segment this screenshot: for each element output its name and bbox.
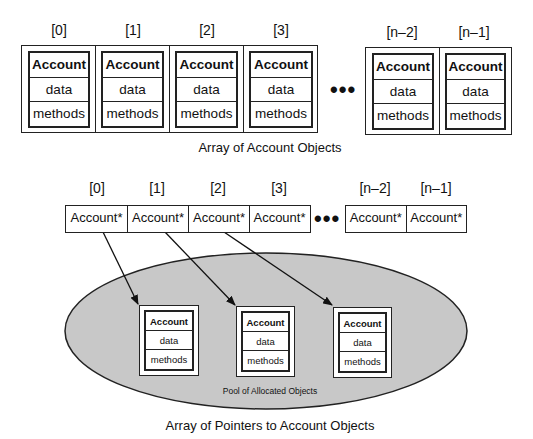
index-label: [3] xyxy=(249,180,309,196)
data-section: data xyxy=(340,333,385,352)
pointer-cell: Account* xyxy=(66,206,128,232)
pointer-cell: Account* xyxy=(407,206,467,232)
methods-section: methods xyxy=(340,352,385,371)
account-object: Account data methods xyxy=(241,311,290,372)
data-section: data xyxy=(146,331,192,350)
account-object: Account data methods xyxy=(144,310,194,371)
index-label: [n–1] xyxy=(406,180,466,196)
pointer-array-container: Account* Account* Account* Account* xyxy=(65,205,311,233)
index-label: [2] xyxy=(188,180,248,196)
account-object: Account data methods xyxy=(338,312,387,373)
pointer-cell: Account* xyxy=(189,206,250,232)
index-label: [n–2] xyxy=(345,180,405,196)
pointer-array-container: Account* Account* xyxy=(345,205,467,233)
index-label: [1] xyxy=(127,180,187,196)
pool-label: Pool of Allocated Objects xyxy=(180,386,360,396)
class-name: Account xyxy=(243,313,288,332)
methods-section: methods xyxy=(146,350,192,369)
class-name: Account xyxy=(340,314,385,333)
data-section: data xyxy=(243,332,288,351)
pointer-cell: Account* xyxy=(346,206,407,232)
bottom-caption: Array of Pointers to Account Objects xyxy=(140,418,400,433)
ellipsis: ••• xyxy=(314,214,340,224)
index-label: [0] xyxy=(67,180,127,196)
class-name: Account xyxy=(146,312,192,331)
methods-section: methods xyxy=(243,351,288,370)
pointer-cell: Account* xyxy=(128,206,189,232)
pointer-cell: Account* xyxy=(250,206,309,232)
